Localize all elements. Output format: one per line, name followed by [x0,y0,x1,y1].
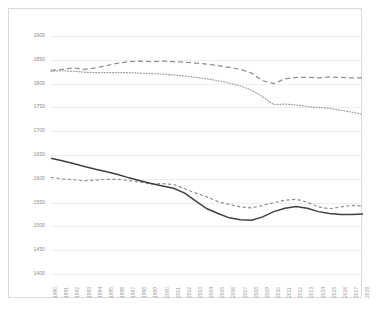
x-axis-tick-label: 2002 [187,287,192,298]
x-axis-tick-label: 2008 [254,287,259,298]
x-axis-tick-label: 2009 [265,287,270,298]
y-axis-tick-label: 1400 [5,271,45,276]
gridline [51,274,363,275]
x-axis-tick-label: 2016 [343,287,348,298]
y-axis-tick-label: 1500 [5,223,45,228]
x-axis-tick-label: 2017 [354,287,359,298]
x-axis-tick-label: 2007 [243,287,248,298]
x-axis-tick-label: 2001 [176,287,181,298]
x-axis-tick-label: 1990 [53,287,58,298]
y-axis-tick-label: 1650 [5,152,45,157]
x-axis-tick-label: 1997 [131,287,136,298]
x-axis-tick-label: 1993 [87,287,92,298]
x-axis-tick-label: 2005 [220,287,225,298]
x-axis-tick-label: 2004 [209,287,214,298]
series-lower-dashed [51,177,363,208]
x-axis-tick-label: 1996 [120,287,125,298]
x-axis-tick-label: 1999 [153,287,158,298]
plot-area [51,36,363,274]
y-axis-tick-label: 1550 [5,200,45,205]
y-axis-tick-label: 1450 [5,247,45,252]
series-upper-dashed [51,61,363,83]
x-axis-tick-label: 2003 [198,287,203,298]
x-axis-tick-label: 1991 [64,287,69,298]
x-axis-tick-label: 1995 [109,287,114,298]
series-upper-dotted [51,71,363,115]
x-axis-tick-label: 2018 [365,287,370,298]
chart-frame: 1900185018001750170016501600155015001450… [8,8,362,298]
x-axis-tick-label: 2010 [276,287,281,298]
x-axis-tick-label: 2013 [309,287,314,298]
series-lower-solid [51,158,363,220]
x-axis-tick-label: 1998 [142,287,147,298]
x-axis-tick-label: 2011 [287,287,292,298]
y-axis-tick-label: 1750 [5,104,45,109]
y-axis-tick-label: 1700 [5,128,45,133]
x-axis-tick-labels: 1990199119921993199419951996199719981999… [51,276,363,315]
y-axis-tick-label: 1900 [5,33,45,38]
y-axis-tick-label: 1850 [5,57,45,62]
series-layer [51,36,363,274]
x-axis-tick-label: 2014 [321,287,326,298]
x-axis-tick-label: 2012 [298,287,303,298]
x-axis-tick-label: 2000 [165,287,170,298]
x-axis-tick-label: 2015 [332,287,337,298]
x-axis-tick-label: 1992 [75,287,80,298]
y-axis-tick-label: 1800 [5,81,45,86]
x-axis-tick-label: 1994 [98,287,103,298]
x-axis-tick-label: 2006 [231,287,236,298]
y-axis-tick-label: 1600 [5,176,45,181]
